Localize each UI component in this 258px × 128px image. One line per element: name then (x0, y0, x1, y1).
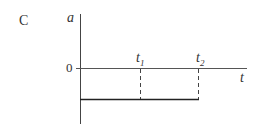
acceleration-graph (0, 0, 258, 128)
